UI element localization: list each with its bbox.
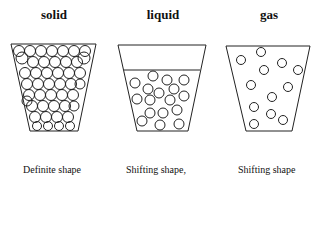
gas-container [226, 46, 310, 131]
gas-particles [237, 48, 303, 129]
solid-particles [14, 46, 91, 131]
liquid-caption: Shifting shape, definite volume [126, 152, 189, 186]
solid-caption-line1: Definite shape [23, 164, 81, 176]
liquid-particles [130, 71, 189, 130]
gas-caption: Shifting shape and volume [238, 152, 296, 186]
solid-caption: Definite shape and volume [23, 152, 81, 186]
gas-caption-line1: Shifting shape [238, 164, 296, 176]
liquid-caption-line1: Shifting shape, [126, 164, 189, 176]
